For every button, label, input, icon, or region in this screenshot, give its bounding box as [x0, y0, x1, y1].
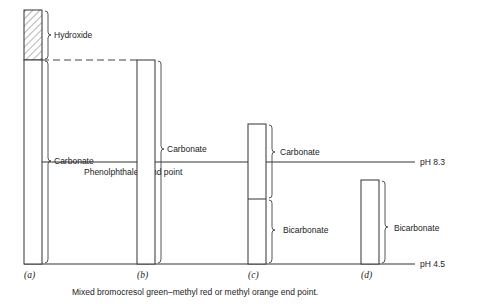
carbonate-label: Carbonate [54, 156, 94, 166]
bicarbonate-bar [361, 180, 379, 264]
phenolphthalein-caption: Phenolphthalein end point [84, 167, 183, 177]
carbonate-bicarbonate-bar [248, 124, 266, 264]
mixed-indicator-caption: Mixed bromocresol green–methyl red or me… [72, 287, 318, 297]
ph83-label: pH 8.3 [420, 157, 445, 167]
hydroxide-brace [45, 11, 51, 59]
column-c: Carbonate Bicarbonate (c) [248, 124, 329, 281]
ph45-label: pH 4.5 [420, 259, 445, 269]
hydroxide-label: Hydroxide [54, 30, 93, 40]
bicarbonate-brace [382, 181, 388, 263]
column-a: Hydroxide Carbonate (a) [24, 10, 94, 281]
carbonate-bar [137, 60, 155, 264]
bicarbonate-brace [269, 200, 275, 263]
hydroxide-bar-hatched [24, 10, 42, 60]
carbonate-label: Carbonate [167, 144, 207, 154]
carbonate-label: Carbonate [280, 147, 320, 157]
carbonate-bar [24, 60, 42, 264]
column-c-label: (c) [248, 270, 259, 281]
bicarbonate-label: Bicarbonate [283, 225, 329, 235]
bicarbonate-label: Bicarbonate [394, 223, 440, 233]
column-a-label: (a) [24, 270, 35, 281]
alkalinity-diagram: pH 8.3 Phenolphthalein end point pH 4.5 … [0, 0, 477, 304]
column-b-label: (b) [137, 270, 148, 281]
column-d-label: (d) [361, 270, 372, 281]
